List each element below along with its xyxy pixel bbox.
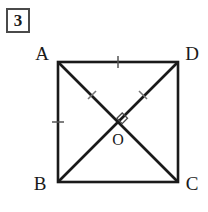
- figure-page: 3 A D B C O: [0, 0, 208, 212]
- geometry-figure: A D B C O: [0, 0, 208, 212]
- vertex-label-c: C: [186, 173, 199, 194]
- vertex-label-b: B: [34, 173, 47, 194]
- vertex-label-a: A: [35, 43, 49, 64]
- center-point-label: O: [112, 131, 124, 148]
- vertex-label-d: D: [185, 43, 199, 64]
